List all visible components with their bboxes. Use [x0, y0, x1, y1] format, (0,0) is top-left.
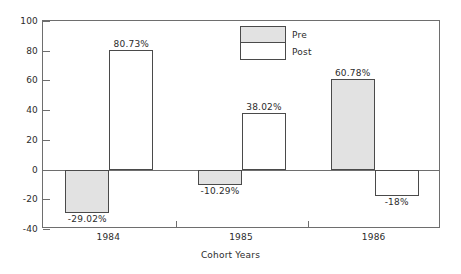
y-tick-label: -40 — [23, 224, 38, 234]
bar-post-1985: 38.02% — [242, 113, 286, 169]
y-tick-mark — [43, 110, 50, 111]
y-tick-label: 100 — [20, 16, 38, 26]
x-axis-label-1986: 1986 — [362, 232, 386, 242]
y-tick-label: 0 — [32, 165, 38, 175]
x-tick-mark — [308, 221, 309, 227]
legend-label-post: Post — [292, 47, 312, 57]
x-axis-label-1984: 1984 — [96, 232, 120, 242]
y-tick-label: 80 — [26, 46, 38, 56]
bar-value-label: -10.29% — [201, 186, 240, 196]
bar-value-label: 60.78% — [335, 68, 371, 78]
x-tick-mark — [176, 221, 177, 227]
bar-value-label: -18% — [385, 197, 409, 207]
y-tick-label: 60 — [26, 75, 38, 85]
legend-label-pre: Pre — [292, 30, 307, 40]
y-tick-label: 40 — [26, 105, 38, 115]
y-tick-mark — [43, 51, 50, 52]
y-tick-mark — [43, 80, 50, 81]
chart-legend: Pre Post — [240, 26, 312, 60]
y-tick-mark — [43, 229, 50, 230]
bar-pre-1985: -10.29% — [198, 170, 242, 185]
bar-value-label: 38.02% — [246, 102, 282, 112]
bar-value-label: 80.73% — [114, 39, 150, 49]
bar-value-label: -29.02% — [68, 214, 107, 224]
legend-swatch-post-icon — [240, 43, 286, 60]
legend-item-post: Post — [240, 43, 312, 60]
y-tick-mark — [43, 199, 50, 200]
bar-post-1986: -18% — [375, 170, 419, 197]
bar-pre-1984: -29.02% — [65, 170, 109, 213]
y-tick-label: 20 — [26, 135, 38, 145]
x-axis-label-1985: 1985 — [229, 232, 253, 242]
legend-swatch-pre-icon — [240, 26, 286, 43]
legend-item-pre: Pre — [240, 26, 312, 43]
bar-chart: 100806040200-20-40 -29.02%80.73%-10.29%3… — [0, 0, 461, 274]
y-tick-label: -20 — [23, 194, 38, 204]
y-tick-mark — [43, 21, 50, 22]
x-axis-title: Cohort Years — [0, 250, 461, 260]
bar-post-1984: 80.73% — [109, 50, 153, 170]
y-tick-mark — [43, 140, 50, 141]
bar-pre-1986: 60.78% — [331, 79, 375, 169]
